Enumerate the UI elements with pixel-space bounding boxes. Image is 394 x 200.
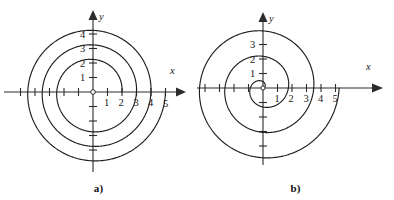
y-tick-label-3-a: 3 (80, 43, 85, 54)
panel-a-caption: a) (0, 182, 197, 194)
y-tick-label-4-a: 4 (80, 29, 86, 40)
x-tick-label-2-b: 2 (289, 93, 294, 104)
x-tick-label-5-a: 5 (163, 98, 168, 109)
y-axis-arrow-b (259, 12, 268, 22)
x-axis-arrow-a (176, 88, 186, 97)
x-axis-label-b: x (365, 61, 371, 72)
x-tick-label-4-a: 4 (148, 97, 154, 108)
y-tick-label-1-a: 1 (80, 72, 85, 83)
y-tick-label-2-b: 2 (250, 54, 255, 65)
x-tick-label-2-a: 2 (119, 97, 124, 108)
x-axis-label-a: x (169, 65, 175, 76)
y-tick-label-3-b: 3 (250, 39, 255, 50)
panel-b: 1 2 3 4 5 1 2 3 x y b) (197, 0, 394, 200)
panel-a-plot: 1 2 3 4 5 1 2 3 4 x y (0, 0, 197, 180)
y-axis-label-a: y (98, 11, 104, 22)
y-axis-label-b: y (268, 13, 274, 24)
x-tick-label-3-b: 3 (304, 93, 309, 104)
x-tick-label-1-a: 1 (104, 97, 109, 108)
x-tick-label-1-b: 1 (275, 93, 280, 104)
y-tick-label-2-a: 2 (80, 58, 85, 69)
x-tick-label-5-b: 5 (333, 93, 338, 104)
panel-b-caption: b) (197, 182, 394, 194)
panel-b-plot: 1 2 3 4 5 1 2 3 x y (197, 0, 394, 180)
panel-a: 1 2 3 4 5 1 2 3 4 x y a) (0, 0, 197, 200)
x-tick-label-4-b: 4 (318, 93, 324, 104)
origin-marker-a (91, 90, 96, 95)
spiral-curve-a (28, 30, 166, 161)
y-axis-arrow-a (89, 10, 98, 20)
origin-marker-b (261, 86, 265, 90)
y-tick-label-1-b: 1 (250, 68, 255, 79)
spiral-figure: 1 2 3 4 5 1 2 3 4 x y a) (0, 0, 394, 200)
x-tick-label-3-a: 3 (134, 97, 139, 108)
x-axis-arrow-b (372, 84, 383, 93)
